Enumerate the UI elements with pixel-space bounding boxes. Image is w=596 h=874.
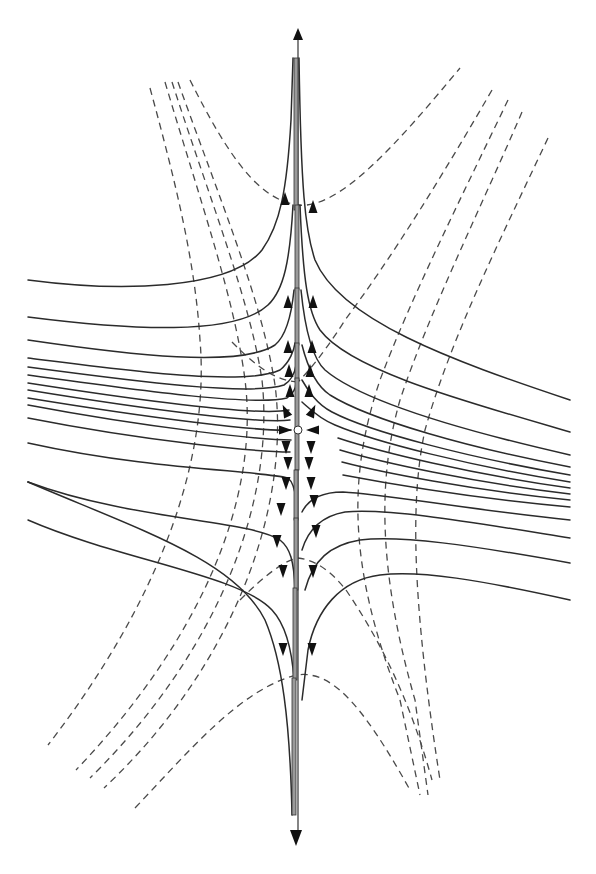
dashed-curve bbox=[346, 590, 432, 780]
streamline bbox=[300, 205, 570, 432]
flow-arrowhead-icon bbox=[309, 200, 318, 213]
flow-arrowhead-icon bbox=[307, 477, 316, 490]
flow-arrowhead-icon bbox=[306, 364, 315, 377]
diagram-canvas bbox=[0, 0, 596, 874]
axis-segment bbox=[295, 343, 299, 380]
streamline bbox=[340, 450, 570, 494]
flow-arrowhead-icon bbox=[277, 503, 286, 516]
flow-arrowhead-icon bbox=[282, 477, 291, 490]
streamline bbox=[28, 58, 293, 286]
arrow-up-icon bbox=[293, 28, 303, 40]
streamline bbox=[302, 574, 570, 700]
streamline bbox=[305, 539, 570, 590]
flow-arrowhead-icon bbox=[285, 364, 294, 377]
axis-segment bbox=[293, 588, 297, 680]
streamline bbox=[28, 520, 294, 680]
axis-segment bbox=[295, 288, 299, 345]
dashed-curve bbox=[90, 82, 264, 778]
streamline bbox=[28, 205, 293, 328]
streamline bbox=[301, 290, 570, 455]
streamline bbox=[28, 383, 289, 411]
streamline bbox=[28, 390, 290, 421]
axis-segment bbox=[295, 430, 299, 470]
streamline bbox=[28, 290, 294, 358]
flow-arrowhead-icon bbox=[273, 535, 282, 548]
flow-arrowhead-icon bbox=[279, 643, 288, 656]
flow-field-diagram bbox=[0, 0, 596, 874]
axis-segment bbox=[294, 58, 298, 210]
flow-arrowhead-icon bbox=[279, 426, 292, 435]
streamline bbox=[28, 418, 290, 452]
flow-arrowhead-icon bbox=[309, 295, 318, 308]
arrow-down-icon bbox=[290, 830, 302, 846]
flow-arrowhead-icon bbox=[305, 457, 314, 470]
axis-segment bbox=[294, 470, 298, 520]
flow-arrowhead-icon bbox=[307, 441, 316, 454]
flow-arrowhead-icon bbox=[286, 384, 295, 397]
streamline bbox=[28, 482, 292, 815]
flow-arrowhead-icon bbox=[279, 565, 288, 578]
dashed-curve bbox=[135, 674, 410, 808]
dashed-curve bbox=[190, 68, 460, 205]
axis-segment bbox=[292, 678, 296, 815]
flow-arrowhead-icon bbox=[284, 457, 293, 470]
dashed-curve bbox=[358, 100, 508, 795]
flow-arrowhead-icon bbox=[284, 340, 293, 353]
flow-arrowhead-icon bbox=[308, 340, 317, 353]
flow-arrowhead-icon bbox=[284, 295, 293, 308]
streamline bbox=[28, 365, 296, 389]
flow-arrowhead-icon bbox=[306, 403, 320, 419]
streamline bbox=[302, 345, 570, 467]
dashed-curve bbox=[48, 88, 201, 745]
flow-arrowhead-icon bbox=[306, 426, 319, 435]
axis-segment bbox=[295, 378, 299, 430]
axis-segment bbox=[295, 205, 299, 290]
streamline bbox=[302, 402, 570, 482]
flow-arrowhead-icon bbox=[312, 525, 321, 538]
stagnation-point bbox=[294, 426, 302, 434]
streamline bbox=[343, 475, 570, 507]
axis-segment bbox=[294, 518, 298, 590]
